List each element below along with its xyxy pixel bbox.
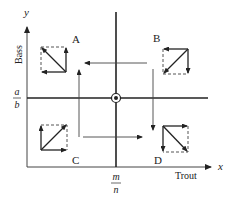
y-equilibrium-fraction: a b xyxy=(13,86,21,110)
svg-text:m: m xyxy=(112,171,119,182)
y-axis-label: Bass xyxy=(13,45,24,64)
y-axis-symbol: y xyxy=(23,6,29,18)
region-d-vector-icon xyxy=(163,126,188,152)
region-b-label: B xyxy=(153,32,160,44)
svg-text:n: n xyxy=(114,184,119,195)
region-b-vector-icon xyxy=(163,49,188,74)
region-a-label: A xyxy=(72,33,80,45)
x-axis-symbol: x xyxy=(217,160,223,172)
svg-text:a: a xyxy=(15,86,20,97)
region-c-label: C xyxy=(72,154,79,166)
region-d-label: D xyxy=(154,154,162,166)
phase-plane-diagram: A B C D y Bass x Trout a b m n xyxy=(0,0,237,201)
region-c-vector-icon xyxy=(41,125,67,150)
x-axis-label: Trout xyxy=(175,170,197,181)
svg-text:b: b xyxy=(15,99,20,110)
x-equilibrium-fraction: m n xyxy=(111,171,121,195)
equilibrium-point-icon xyxy=(112,94,121,103)
region-a-vector-icon xyxy=(41,47,66,72)
